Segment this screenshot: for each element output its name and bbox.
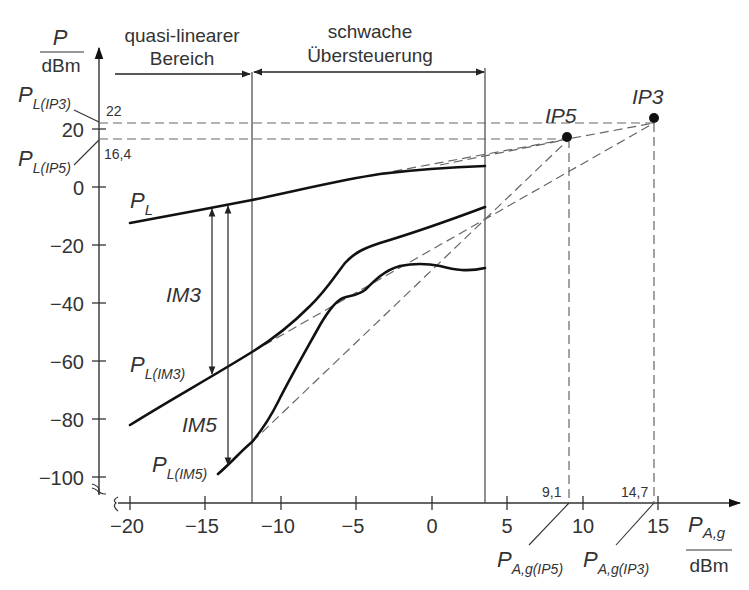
pl-ip3-label: PL(IP3) [18,82,71,112]
y-tick-20: 20 [62,119,84,141]
region-arrows [115,72,484,74]
curve-pl [130,166,485,223]
x-tick-5: 5 [501,515,512,537]
x-tick-minus10: −10 [261,515,295,537]
region-quasi-linear-line1: quasi-linearer [124,25,240,46]
pl-ip3-value: 22 [106,103,122,119]
x-axis-symbol: PA,g [688,512,726,541]
dashed-extrapolations [99,123,654,503]
pl-im3-label: PL(IM3) [130,352,185,382]
pa-ip5-value: 9,1 [542,484,562,500]
x-tick-10: 10 [572,515,594,537]
im5-label: IM5 [182,413,217,436]
x-tick-minus20: −20 [110,515,144,537]
y-tick-minus40: −40 [50,293,84,315]
region-weak-overdrive-line2: Übersteuerung [307,45,433,66]
y-tick-minus20: −20 [50,235,84,257]
x-tick-minus5: −5 [342,515,365,537]
y-tick-minus60: −60 [50,351,84,373]
ip5-point [562,132,572,142]
y-tick-minus80: −80 [50,409,84,431]
pl-ip5-value: 16,4 [104,146,131,162]
y-tick-0: 0 [73,177,84,199]
im3-label: IM3 [166,283,201,306]
x-tick-0: 0 [426,515,437,537]
curve-im3 [130,207,485,425]
x-tick-minus15: −15 [185,515,219,537]
y-tick-minus100: −100 [39,467,84,489]
pl-label: PL [130,188,153,218]
pa-ip5-label: PA,g(IP5) [497,547,563,577]
pa-ip3-value: 14,7 [621,484,648,500]
x-tick-15: 15 [647,515,669,537]
curve-im5 [218,264,485,474]
ip3-point [649,113,659,123]
pa-ip3-label: PA,g(IP3) [583,547,649,577]
intermodulation-diagram: 20 0 −20 −40 −60 −80 −100 P dBm −20 −1 [0,0,749,590]
region-weak-overdrive-line1: schwache [328,21,413,42]
ip5-label: IP5 [545,104,577,127]
ip3-label: IP3 [632,85,664,108]
y-axis-symbol: P [53,25,68,50]
pl-im5-label: PL(IM5) [152,452,207,482]
pl-ip5-label: PL(IP5) [18,146,71,176]
x-axis-unit: dBm [689,555,728,576]
y-axis-unit: dBm [41,55,80,76]
region-quasi-linear-line2: Bereich [150,48,214,69]
